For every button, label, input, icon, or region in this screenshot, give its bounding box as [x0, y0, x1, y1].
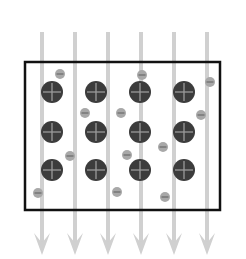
negative-ion: [160, 192, 170, 202]
positive-ion: [41, 81, 63, 103]
arrow-6: [199, 32, 215, 255]
negative-ion: [33, 188, 43, 198]
positive-ion: [41, 159, 63, 181]
arrow-3: [100, 32, 116, 255]
positive-ion: [41, 121, 63, 143]
positive-ions: [41, 81, 195, 181]
negative-ion: [65, 151, 75, 161]
positive-ion: [85, 81, 107, 103]
negative-ion: [80, 108, 90, 118]
arrow-1: [34, 32, 50, 255]
negative-ion: [116, 108, 126, 118]
arrow-2: [67, 32, 83, 255]
positive-ion: [129, 121, 151, 143]
negative-ion: [55, 69, 65, 79]
negative-ion: [158, 142, 168, 152]
negative-ion: [196, 110, 206, 120]
arrow-5: [166, 32, 182, 255]
positive-ion: [173, 159, 195, 181]
negative-ion: [112, 187, 122, 197]
ion-flow-diagram: [0, 0, 246, 259]
downward-arrows: [34, 32, 215, 255]
negative-ion: [137, 70, 147, 80]
positive-ion: [173, 121, 195, 143]
positive-ion: [85, 121, 107, 143]
positive-ion: [129, 81, 151, 103]
arrow-4: [133, 32, 149, 255]
negative-ion: [205, 77, 215, 87]
positive-ion: [173, 81, 195, 103]
negative-ion: [122, 150, 132, 160]
positive-ion: [129, 159, 151, 181]
positive-ion: [85, 159, 107, 181]
